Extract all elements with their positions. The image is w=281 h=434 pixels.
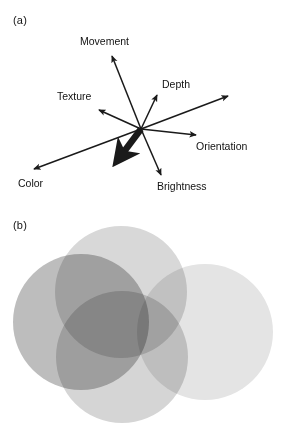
vector-label-orientation: Orientation — [196, 141, 247, 152]
circles-group — [13, 226, 273, 423]
vector-label-color: Color — [18, 178, 43, 189]
vector-label-texture: Texture — [57, 91, 91, 102]
vector-label-brightness: Brightness — [157, 181, 207, 192]
circle-right — [137, 264, 273, 400]
panel-a-vector-diagram: (a) Movement Depth Texture Orientation B… — [0, 0, 281, 212]
panel-b-venn-circles: (b) — [0, 212, 281, 434]
panel-a-label: (a) — [13, 14, 27, 26]
vector-label-depth: Depth — [162, 79, 190, 90]
vector-lines-group — [34, 56, 228, 175]
panel-b-label: (b) — [13, 219, 27, 231]
overlapping-circles-svg — [0, 212, 281, 434]
vector-label-movement: Movement — [80, 36, 129, 47]
vector-orientation — [141, 129, 196, 135]
vector-brightness — [141, 129, 161, 175]
figure-container: (a) Movement Depth Texture Orientation B… — [0, 0, 281, 434]
